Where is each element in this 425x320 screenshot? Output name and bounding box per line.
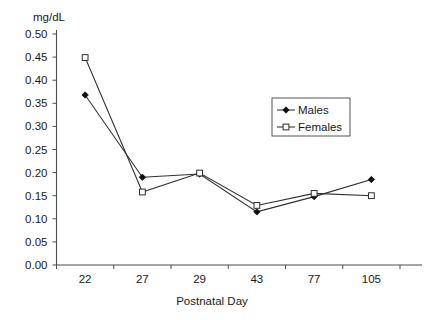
y-tick-label: 0.35 xyxy=(25,97,47,109)
legend-label-males: Males xyxy=(298,104,329,116)
y-axis-ticks: 0.000.050.100.150.200.250.300.350.400.45… xyxy=(25,28,56,271)
line-chart: 0.000.050.100.150.200.250.300.350.400.45… xyxy=(0,0,425,320)
y-tick-label: 0.25 xyxy=(25,144,47,156)
legend-marker-females xyxy=(283,124,289,130)
x-tick-label: 43 xyxy=(250,273,263,285)
data-point-marker xyxy=(197,170,203,176)
x-tick-label: 77 xyxy=(308,273,321,285)
data-point-marker xyxy=(139,174,145,180)
data-point-marker xyxy=(139,189,145,195)
chart-figure: 0.000.050.100.150.200.250.300.350.400.45… xyxy=(0,0,425,320)
y-tick-label: 0.20 xyxy=(25,167,47,179)
data-point-marker xyxy=(254,203,260,209)
chart-legend: MalesFemales xyxy=(272,98,350,136)
y-tick-label: 0.00 xyxy=(25,259,47,271)
x-axis-ticks: 2227294377105 xyxy=(57,265,401,285)
x-tick-label: 27 xyxy=(136,273,149,285)
x-tick-label: 22 xyxy=(79,273,92,285)
y-tick-label: 0.05 xyxy=(25,236,47,248)
y-tick-label: 0.50 xyxy=(25,28,47,40)
data-point-marker xyxy=(82,55,88,61)
axis-lines xyxy=(57,30,423,265)
data-point-marker xyxy=(311,190,317,196)
x-tick-label: 29 xyxy=(193,273,206,285)
x-axis-title: Postnatal Day xyxy=(176,295,248,307)
data-point-marker xyxy=(254,209,260,215)
y-tick-label: 0.40 xyxy=(25,74,47,86)
y-tick-label: 0.10 xyxy=(25,213,47,225)
data-point-marker xyxy=(82,92,88,98)
y-axis-unit-label: mg/dL xyxy=(33,11,66,23)
legend-label-females: Females xyxy=(298,121,342,133)
y-tick-label: 0.15 xyxy=(25,190,47,202)
data-point-marker xyxy=(368,176,374,182)
y-tick-label: 0.45 xyxy=(25,51,47,63)
data-point-marker xyxy=(368,193,374,199)
axes xyxy=(57,30,423,265)
y-tick-label: 0.30 xyxy=(25,120,47,132)
x-tick-label: 105 xyxy=(362,273,381,285)
